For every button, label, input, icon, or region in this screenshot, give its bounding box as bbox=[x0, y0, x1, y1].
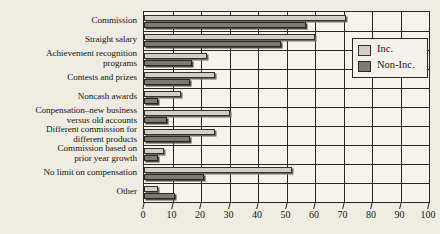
x-tick-label: 50 bbox=[271, 209, 301, 220]
x-axis: 0102030405060708090100 bbox=[143, 202, 429, 232]
x-tick bbox=[285, 202, 288, 209]
row-separator bbox=[144, 164, 429, 165]
row-separator bbox=[144, 126, 429, 127]
x-tick bbox=[313, 202, 316, 209]
bar-inc bbox=[144, 167, 292, 174]
bar-inc bbox=[144, 34, 315, 41]
x-tick bbox=[342, 202, 345, 209]
legend-swatch-inc-icon bbox=[358, 45, 371, 56]
category-label: Conpensation–new businessversus old acco… bbox=[0, 106, 137, 125]
bar-non-inc bbox=[144, 136, 190, 143]
category-label: No limit on compensation bbox=[0, 168, 137, 177]
x-tick bbox=[142, 202, 145, 209]
bar-non-inc bbox=[144, 60, 192, 67]
bar-inc bbox=[144, 15, 346, 22]
bar-inc bbox=[144, 72, 215, 79]
bar-inc bbox=[144, 129, 215, 136]
row-separator bbox=[144, 88, 429, 89]
category-label: Straight salary bbox=[0, 35, 137, 44]
row-separator bbox=[144, 183, 429, 184]
category-label: Other bbox=[0, 187, 137, 196]
x-tick bbox=[228, 202, 231, 209]
row-separator bbox=[144, 31, 429, 32]
x-tick bbox=[370, 202, 373, 209]
gridline bbox=[429, 12, 430, 202]
bar-non-inc bbox=[144, 117, 167, 124]
bar-non-inc bbox=[144, 174, 204, 181]
row-separator bbox=[144, 145, 429, 146]
x-tick-label: 100 bbox=[413, 209, 440, 220]
x-tick-label: 10 bbox=[157, 209, 187, 220]
chart-figure: CommissionStraight salaryAchievement rec… bbox=[0, 0, 440, 234]
x-tick-label: 0 bbox=[128, 209, 158, 220]
category-label: Achievement recognitionprograms bbox=[0, 49, 137, 68]
x-tick bbox=[256, 202, 259, 209]
x-tick-label: 70 bbox=[328, 209, 358, 220]
bar-non-inc bbox=[144, 155, 158, 162]
bar-non-inc bbox=[144, 22, 306, 29]
bar-non-inc bbox=[144, 41, 281, 48]
x-tick bbox=[399, 202, 402, 209]
row-separator bbox=[144, 107, 429, 108]
x-tick-label: 20 bbox=[185, 209, 215, 220]
x-tick bbox=[427, 202, 430, 209]
bar-inc bbox=[144, 186, 158, 193]
bar-inc bbox=[144, 148, 164, 155]
legend-label-non-inc: Non-Inc. bbox=[377, 59, 415, 70]
x-tick-label: 90 bbox=[385, 209, 415, 220]
category-label: Commission bbox=[0, 16, 137, 25]
category-label: Different commission fordifferent produc… bbox=[0, 125, 137, 144]
bar-non-inc bbox=[144, 79, 190, 86]
bar-inc bbox=[144, 110, 230, 117]
bar-inc bbox=[144, 91, 181, 98]
category-label: Noncash awards bbox=[0, 92, 137, 101]
x-tick bbox=[199, 202, 202, 209]
legend-label-inc: Inc. bbox=[377, 43, 393, 54]
bar-non-inc bbox=[144, 193, 175, 200]
x-tick-label: 30 bbox=[214, 209, 244, 220]
bar-inc bbox=[144, 53, 207, 60]
category-label: Commission based onprior year growth bbox=[0, 144, 137, 163]
chart-legend: Inc. Non-Inc. bbox=[352, 38, 428, 78]
x-tick-label: 60 bbox=[299, 209, 329, 220]
category-axis-labels: CommissionStraight salaryAchievement rec… bbox=[0, 11, 140, 201]
legend-swatch-non-inc-icon bbox=[358, 61, 371, 72]
bar-non-inc bbox=[144, 98, 158, 105]
x-tick-label: 40 bbox=[242, 209, 272, 220]
category-label: Contests and prizes bbox=[0, 73, 137, 82]
x-tick-label: 80 bbox=[356, 209, 386, 220]
x-tick bbox=[171, 202, 174, 209]
